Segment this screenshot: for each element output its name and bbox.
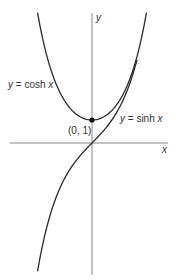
point-0-1-marker — [89, 117, 94, 122]
x-axis-label: x — [161, 144, 168, 155]
sinh-curve — [38, 60, 137, 272]
point-label: (0, 1) — [68, 125, 91, 136]
y-axis-label: y — [95, 12, 102, 23]
cosh-label: y = cosh x — [7, 79, 54, 90]
sinh-label: y = sinh x — [119, 113, 164, 124]
hyperbolic-functions-graph: y x y = cosh x y = sinh x (0, 1) — [0, 0, 176, 280]
